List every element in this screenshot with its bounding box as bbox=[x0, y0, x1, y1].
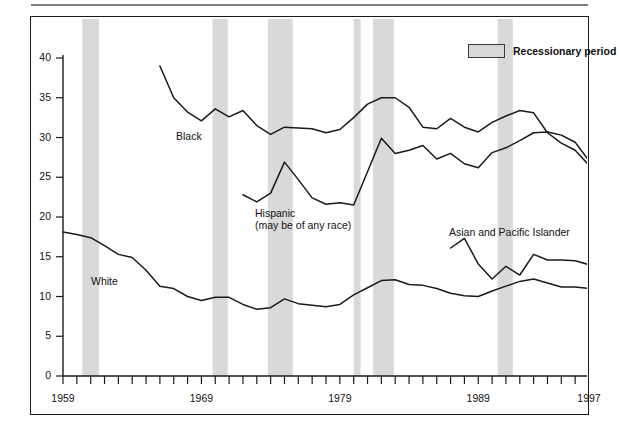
y-tick-label: 30 bbox=[27, 131, 51, 143]
legend: Recessionary period bbox=[468, 44, 616, 58]
series-label-white: White bbox=[91, 275, 118, 287]
series-label-hispanic: Hispanic (may be of any race) bbox=[255, 207, 351, 231]
recession-band bbox=[268, 19, 293, 376]
recession-band bbox=[212, 19, 227, 376]
series-label-black: Black bbox=[176, 130, 202, 142]
x-tick-label: 1997 bbox=[567, 392, 611, 404]
x-tick-label: 1959 bbox=[41, 392, 85, 404]
chart-frame: Recessionary period 0510152025303540 195… bbox=[30, 16, 589, 415]
series-line-asian bbox=[451, 238, 587, 279]
y-tick-marks bbox=[56, 58, 63, 376]
recession-band bbox=[373, 19, 394, 376]
series-label-hispanic-line1: Hispanic bbox=[255, 207, 351, 219]
legend-label-recession: Recessionary period bbox=[513, 45, 616, 57]
series-line-hispanic bbox=[243, 132, 587, 205]
legend-swatch-recession bbox=[468, 44, 505, 58]
x-tick-label: 1989 bbox=[456, 392, 500, 404]
y-tick-label: 0 bbox=[27, 369, 51, 381]
x-tick-label: 1979 bbox=[318, 392, 362, 404]
recession-band bbox=[82, 19, 99, 376]
y-tick-label: 20 bbox=[27, 210, 51, 222]
y-tick-label: 5 bbox=[27, 329, 51, 341]
series-label-asian: Asian and Pacific Islander bbox=[449, 226, 570, 238]
y-tick-label: 40 bbox=[27, 51, 51, 63]
recession-band-group bbox=[82, 19, 512, 376]
y-tick-label: 25 bbox=[27, 170, 51, 182]
top-divider-rule bbox=[31, 4, 588, 6]
recession-band bbox=[498, 19, 513, 376]
y-tick-label: 10 bbox=[27, 290, 51, 302]
x-tick-marks bbox=[63, 376, 587, 384]
x-tick-label: 1969 bbox=[179, 392, 223, 404]
series-label-hispanic-line2: (may be of any race) bbox=[255, 219, 351, 231]
y-tick-label: 15 bbox=[27, 250, 51, 262]
y-tick-label: 35 bbox=[27, 91, 51, 103]
